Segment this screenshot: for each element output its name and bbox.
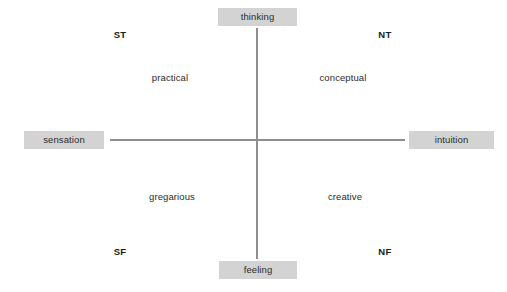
pole-label-thinking: thinking — [218, 8, 297, 26]
pole-label-intuition: intuition — [409, 131, 494, 149]
quadrant-diagram: thinking feeling sensation intuition ST … — [0, 0, 507, 292]
quadrant-code-nt: NT — [365, 29, 405, 40]
quadrant-descriptor-conceptual: conceptual — [288, 72, 398, 83]
quadrant-code-st: ST — [100, 29, 140, 40]
pole-label-feeling: feeling — [219, 261, 297, 279]
vertical-axis-line — [256, 28, 258, 259]
quadrant-descriptor-gregarious: gregarious — [117, 191, 227, 202]
pole-label-sensation: sensation — [24, 131, 104, 149]
quadrant-descriptor-creative: creative — [290, 191, 400, 202]
quadrant-code-sf: SF — [100, 246, 140, 257]
horizontal-axis-line — [110, 139, 405, 141]
quadrant-code-nf: NF — [365, 246, 405, 257]
quadrant-descriptor-practical: practical — [115, 72, 225, 83]
